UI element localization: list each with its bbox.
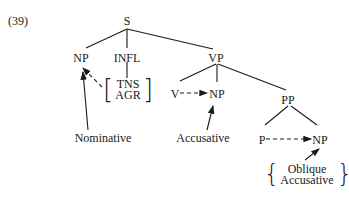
right-bracket: ] [143, 78, 153, 100]
node-pp: PP [281, 94, 294, 106]
arrow-agr-to-np [83, 68, 102, 87]
edge-vp-v [180, 64, 216, 81]
node-v: V [171, 88, 180, 100]
edge-s-np [86, 29, 127, 48]
arrow-oblique-to-np [305, 149, 319, 160]
node-s: S [124, 15, 131, 27]
edge-s-vp [127, 29, 213, 49]
label-nominative: Nominative [75, 132, 132, 144]
node-np-subject: NP [73, 52, 88, 64]
edge-pp-np [291, 106, 317, 125]
infl-features: TNS AGR [115, 79, 140, 101]
node-np-object: NP [209, 88, 224, 100]
edge-vp-pp [218, 64, 286, 90]
label-accusative-oblique: Accusative [280, 175, 333, 186]
node-infl: INFL [114, 52, 141, 64]
oblique-accusative-label: Oblique Accusative [280, 164, 333, 186]
node-p: P [259, 134, 266, 146]
arrow-accusative-to-np [207, 106, 213, 130]
right-brace: } [337, 163, 349, 185]
left-brace: { [264, 163, 279, 185]
left-bracket: [ [103, 78, 113, 100]
label-accusative: Accusative [176, 132, 229, 144]
node-vp: VP [208, 52, 223, 64]
arrow-nominative-to-np [83, 72, 88, 130]
edge-pp-p [265, 106, 288, 125]
feature-agr: AGR [115, 90, 140, 101]
node-np-pobject: NP [312, 134, 327, 146]
